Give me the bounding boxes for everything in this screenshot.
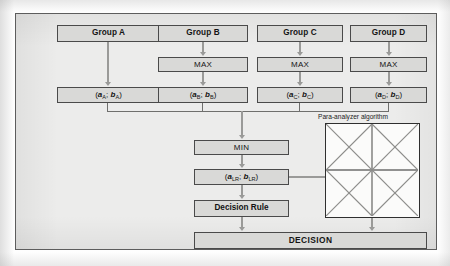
group-d-box[interactable]: Group D [350,25,427,42]
connector-result-to-para-analyzer [289,176,326,178]
min-label: MIN [234,144,250,152]
group-d-label: Group D [372,29,405,37]
para-analyzer-label: Para-analyzer algorithm [318,113,388,120]
connector-bus-to-min [241,111,243,136]
para-analyzer-square[interactable] [325,123,420,218]
arrow-group-c-to-max [297,52,303,56]
result-separator: ; [239,172,241,181]
decision-rule-label: Decision Rule [214,204,268,212]
arrow-decision-rule-to-decision [239,227,245,231]
arrow-min-to-result [239,164,245,168]
pair-box-c[interactable]: (aC; bC) [257,87,343,103]
max-box-group-c[interactable]: MAX [257,57,343,72]
max-box-group-d[interactable]: MAX [350,57,427,72]
connector-group-a-to-pair-a [107,42,109,83]
arrow-group-b-to-max [200,52,206,56]
max-c-label: MAX [291,61,309,69]
arrow-bus-to-min [239,135,245,139]
arrow-max-d-to-pair-d [386,82,392,86]
pair-a-subscript-b: A [115,94,119,100]
para-analyzer-shape [326,124,418,216]
pair-d-separator: ; [386,90,388,99]
pair-a-separator: ; [106,90,108,99]
pair-c-subscript-b: C [307,94,311,100]
max-b-label: MAX [194,61,212,69]
decision-rule-box[interactable]: Decision Rule [194,200,289,217]
pair-b-label: (aB; bB) [190,91,217,99]
group-c-box[interactable]: Group C [257,25,343,42]
pair-d-label: (aD; bD) [375,91,402,99]
pair-box-a[interactable]: (aA; bA) [57,87,160,103]
group-c-label: Group C [283,29,316,37]
pair-a-subscript-a: A [102,94,106,100]
pair-c-label: (aC; bC) [286,91,313,99]
pair-b-subscript-a: B [197,94,201,100]
pair-b-subscript-b: B [210,94,214,100]
result-subscript-b: LR [248,176,255,182]
arrow-group-a-to-pair-a [105,82,111,86]
group-a-box[interactable]: Group A [57,25,160,42]
diagram-canvas: Group A Group B Group C Group D MAX MAX … [0,0,450,266]
arrow-para-analyzer-to-decision [369,227,375,231]
pair-box-b[interactable]: (aB; bB) [158,87,248,103]
pair-box-d[interactable]: (aD; bD) [350,87,427,103]
arrow-max-c-to-pair-c [297,82,303,86]
arrow-result-to-decision-rule [239,195,245,199]
pair-d-subscript-a: D [382,94,386,100]
bus-horizontal-line [107,111,389,112]
arrow-group-d-to-max [386,52,392,56]
decision-label: DECISION [289,236,333,244]
max-box-group-b[interactable]: MAX [158,57,248,72]
group-a-label: Group A [92,29,125,37]
min-box[interactable]: MIN [194,140,289,155]
pair-d-subscript-b: D [395,94,399,100]
arrow-max-b-to-pair-b [200,82,206,86]
result-pair-label: (aLR; bLR) [225,173,258,181]
group-b-label: Group B [186,29,219,37]
max-d-label: MAX [380,61,398,69]
diagram-frame: Group A Group B Group C Group D MAX MAX … [15,13,437,250]
result-subscript-a: LR [232,176,239,182]
decision-box[interactable]: DECISION [194,232,427,249]
pair-a-label: (aA; bA) [95,91,122,99]
pair-c-subscript-a: C [294,94,298,100]
group-b-box[interactable]: Group B [158,25,248,42]
result-pair-box[interactable]: (aLR; bLR) [194,169,289,185]
